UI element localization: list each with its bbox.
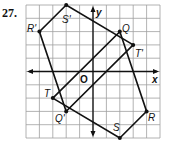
label-q: Q: [122, 23, 130, 34]
axes: [27, 6, 159, 137]
x-axis-label: x: [151, 74, 158, 85]
y-axis-label: y: [95, 7, 102, 18]
label-t: T: [44, 88, 51, 99]
label-t-prime: T': [135, 48, 144, 59]
label-q-prime: Q': [55, 113, 66, 124]
origin-label: O: [80, 74, 88, 85]
label-r-prime: R': [27, 23, 37, 34]
label-s-prime: S': [62, 14, 72, 25]
label-s: S: [113, 122, 120, 133]
coordinate-diagram: y x O Q R S T Q' R' S' T': [0, 0, 169, 141]
label-r: R: [148, 112, 155, 123]
